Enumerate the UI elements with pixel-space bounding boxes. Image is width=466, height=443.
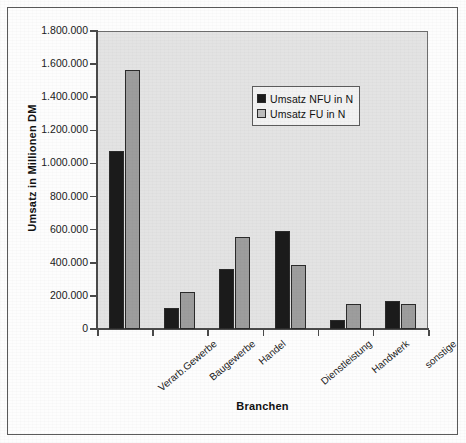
y-axis-tick-label: 1.400.000 <box>0 90 88 102</box>
y-axis-tick-mark <box>90 163 96 165</box>
y-axis-tick-label: 1.000.000 <box>0 156 88 168</box>
y-axis-tick-mark <box>90 30 96 32</box>
gray-square-swatch-icon <box>257 109 266 118</box>
x-axis-tick-mark <box>263 330 265 336</box>
y-axis-tick-label: 600.000 <box>0 223 88 235</box>
bar-nfu-5 <box>385 301 400 329</box>
y-axis-tick-label: 1.200.000 <box>0 123 88 135</box>
y-axis-tick-mark <box>90 229 96 231</box>
plot-area <box>97 31 428 329</box>
bar-fu-4 <box>346 304 361 329</box>
x-axis-title: Branchen <box>97 400 428 412</box>
y-axis-tick-label: 800.000 <box>0 190 88 202</box>
x-axis-tick-mark <box>318 330 320 336</box>
y-axis-tick-label: 0 <box>0 322 88 334</box>
x-axis-tick-mark <box>428 330 430 336</box>
legend-item-fu: Umsatz FU in N <box>257 106 353 121</box>
legend-item-nfu: Umsatz NFU in N <box>257 91 353 106</box>
bar-fu-2 <box>235 237 250 329</box>
y-axis-tick-mark <box>90 63 96 65</box>
legend-label-nfu: Umsatz NFU in N <box>270 93 353 105</box>
y-axis-tick-mark <box>90 328 96 330</box>
bar-nfu-4 <box>330 320 345 329</box>
bar-nfu-1 <box>164 308 179 329</box>
y-axis-tick-label: 200.000 <box>0 289 88 301</box>
y-axis-tick-label: 400.000 <box>0 256 88 268</box>
bar-fu-5 <box>401 304 416 329</box>
black-square-swatch-icon <box>257 94 266 103</box>
y-axis-tick-mark <box>90 262 96 264</box>
chart-screenshot: 0200.000400.000600.000800.0001.000.0001.… <box>0 0 466 443</box>
x-axis-tick-mark <box>207 330 209 336</box>
bar-fu-3 <box>291 265 306 329</box>
bar-nfu-3 <box>275 231 290 329</box>
bar-fu-0 <box>125 70 140 329</box>
y-axis-tick-mark <box>90 196 96 198</box>
bar-fu-1 <box>180 292 195 329</box>
y-axis-tick-label: 1.600.000 <box>0 57 88 69</box>
y-axis-tick-mark <box>90 96 96 98</box>
chart-legend: Umsatz NFU in N Umsatz FU in N <box>252 86 360 126</box>
y-axis-tick-mark <box>90 295 96 297</box>
y-axis-line <box>96 30 98 330</box>
bar-nfu-0 <box>109 151 124 329</box>
legend-label-fu: Umsatz FU in N <box>270 108 346 120</box>
bar-nfu-2 <box>219 269 234 329</box>
x-axis-tick-mark <box>152 330 154 336</box>
x-axis-tick-mark <box>373 330 375 336</box>
x-axis-tick-mark <box>97 330 99 336</box>
y-axis-tick-mark <box>90 130 96 132</box>
y-axis-tick-label: 1.800.000 <box>0 24 88 36</box>
y-axis-title: Umsatz in Millionen DM <box>26 68 38 268</box>
